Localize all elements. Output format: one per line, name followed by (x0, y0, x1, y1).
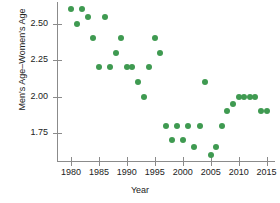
data-point (169, 137, 175, 143)
x-axis-tick-label: 2000 (168, 168, 198, 177)
x-axis-tick-label: 1990 (112, 168, 142, 177)
data-point (157, 50, 163, 56)
data-point (252, 94, 258, 100)
x-axis-tick-label: 2015 (252, 168, 280, 177)
y-axis-tick-label: 2.25 (30, 55, 48, 64)
x-axis-tick-label: 1995 (140, 168, 170, 177)
data-point (135, 79, 141, 85)
data-point (129, 64, 135, 70)
data-point (163, 123, 169, 129)
y-axis-title: Men's Age–Women's Age (18, 0, 27, 130)
data-point (79, 6, 85, 12)
data-point (90, 35, 96, 41)
data-point (197, 123, 203, 129)
data-point (185, 123, 191, 129)
data-point (219, 123, 225, 129)
data-point (102, 14, 108, 20)
data-point (191, 144, 197, 150)
data-point (85, 14, 91, 20)
data-point (107, 64, 113, 70)
x-axis-tick-label: 1985 (84, 168, 114, 177)
data-point (202, 79, 208, 85)
x-axis-tick-label: 2005 (196, 168, 226, 177)
y-axis-tick-label: 2.00 (30, 92, 48, 101)
data-point (174, 123, 180, 129)
data-point (152, 35, 158, 41)
data-point (74, 21, 80, 27)
data-point (208, 152, 214, 158)
data-point (118, 35, 124, 41)
y-axis-tick-label: 1.75 (30, 128, 48, 137)
data-point (224, 108, 230, 114)
scatter-chart: 2.502.252.001.75 19801985199019952000200… (0, 0, 280, 203)
data-point (141, 94, 147, 100)
data-point (96, 64, 102, 70)
plot-area (57, 2, 275, 162)
data-point (146, 64, 152, 70)
x-axis-tick-label: 1980 (56, 168, 86, 177)
x-axis-tick-label: 2010 (224, 168, 254, 177)
data-point (113, 50, 119, 56)
data-point (180, 137, 186, 143)
data-point (68, 6, 74, 12)
data-point (264, 108, 270, 114)
data-point (213, 144, 219, 150)
y-axis-tick-label: 2.50 (30, 19, 48, 28)
data-point (230, 101, 236, 107)
x-axis-title: Year (0, 186, 280, 195)
